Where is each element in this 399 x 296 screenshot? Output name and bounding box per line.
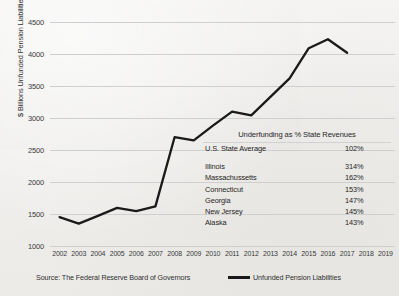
x-axis-tick-label: 2017 [340, 250, 355, 257]
chart-legend: Unfunded Pension Liabilities [228, 273, 341, 282]
table-row-value: 102% [345, 144, 391, 153]
x-axis-tick-label: 2004 [91, 250, 106, 257]
table-row-label: Illinois [205, 162, 225, 171]
table-row-label: Massachussetts [205, 173, 257, 182]
table-row-value: 143% [345, 218, 391, 227]
y-axis-tick-label: 1500 [0, 210, 44, 219]
gridline [50, 246, 395, 247]
stats-table-body: Illinois314%Massachussetts162%Connecticu… [203, 161, 391, 228]
x-axis-tick-label: 2003 [71, 250, 86, 257]
x-axis-tick-label: 2006 [129, 250, 144, 257]
x-axis-tick-label: 2007 [148, 250, 163, 257]
table-row-label: New Jersey [205, 207, 243, 216]
x-axis-tick-label: 2011 [225, 250, 239, 257]
x-axis-tick-label: 2013 [263, 250, 278, 257]
y-axis-tick-label: 2000 [0, 178, 44, 187]
table-row-label: Connecticut [205, 185, 243, 194]
table-row-label: U.S. State Average [205, 144, 266, 153]
table-row-value: 153% [345, 185, 391, 194]
table-row-label: Georgia [205, 196, 231, 205]
table-row-value: 145% [345, 207, 391, 216]
x-axis-tick-label: 2019 [378, 250, 393, 257]
x-axis-tick-label: 2002 [52, 250, 67, 257]
chart-page: $ Billions Unfunded Pension Liabilities … [0, 0, 399, 296]
table-row: New Jersey145% [203, 206, 391, 217]
table-row: Georgia147% [203, 195, 391, 206]
table-row-average: U.S. State Average 102% [203, 143, 391, 154]
x-axis-tick-label: 2005 [110, 250, 125, 257]
x-axis-tick-label: 2014 [282, 250, 297, 257]
x-axis-tick-label: 2008 [167, 250, 182, 257]
x-axis-tick-label: 2018 [359, 250, 374, 257]
x-axis-tick-label: 2016 [321, 250, 336, 257]
legend-label: Unfunded Pension Liabilities [253, 273, 341, 282]
y-axis-title: $ Billions Unfunded Pension Liabilities [16, 0, 25, 147]
x-axis-tick-labels: 2002200320042005200620072008200920102011… [50, 250, 395, 262]
source-note: Source: The Federal Reserve Board of Gov… [36, 273, 190, 282]
table-row-value: 314% [345, 162, 391, 171]
table-row: Connecticut153% [203, 184, 391, 195]
table-row: Illinois314% [203, 161, 391, 172]
y-axis-tick-label: 1000 [0, 242, 44, 251]
x-axis-tick-label: 2009 [186, 250, 201, 257]
table-row-label: Alaska [205, 218, 227, 227]
table-row-value: 147% [345, 196, 391, 205]
stats-table-title: Underfunding as % State Revenues [203, 130, 391, 142]
x-axis-tick-label: 2015 [301, 250, 316, 257]
x-axis-tick-label: 2010 [206, 250, 221, 257]
underfunding-stats-table: Underfunding as % State Revenues U.S. St… [203, 130, 391, 228]
table-row: Massachussetts162% [203, 172, 391, 183]
y-axis-tick-label: 2500 [0, 146, 44, 155]
table-row-value: 162% [345, 173, 391, 182]
legend-line-swatch [228, 276, 250, 278]
stats-table-spacer [203, 154, 391, 161]
x-axis-tick-label: 2012 [244, 250, 259, 257]
table-row: Alaska143% [203, 217, 391, 228]
